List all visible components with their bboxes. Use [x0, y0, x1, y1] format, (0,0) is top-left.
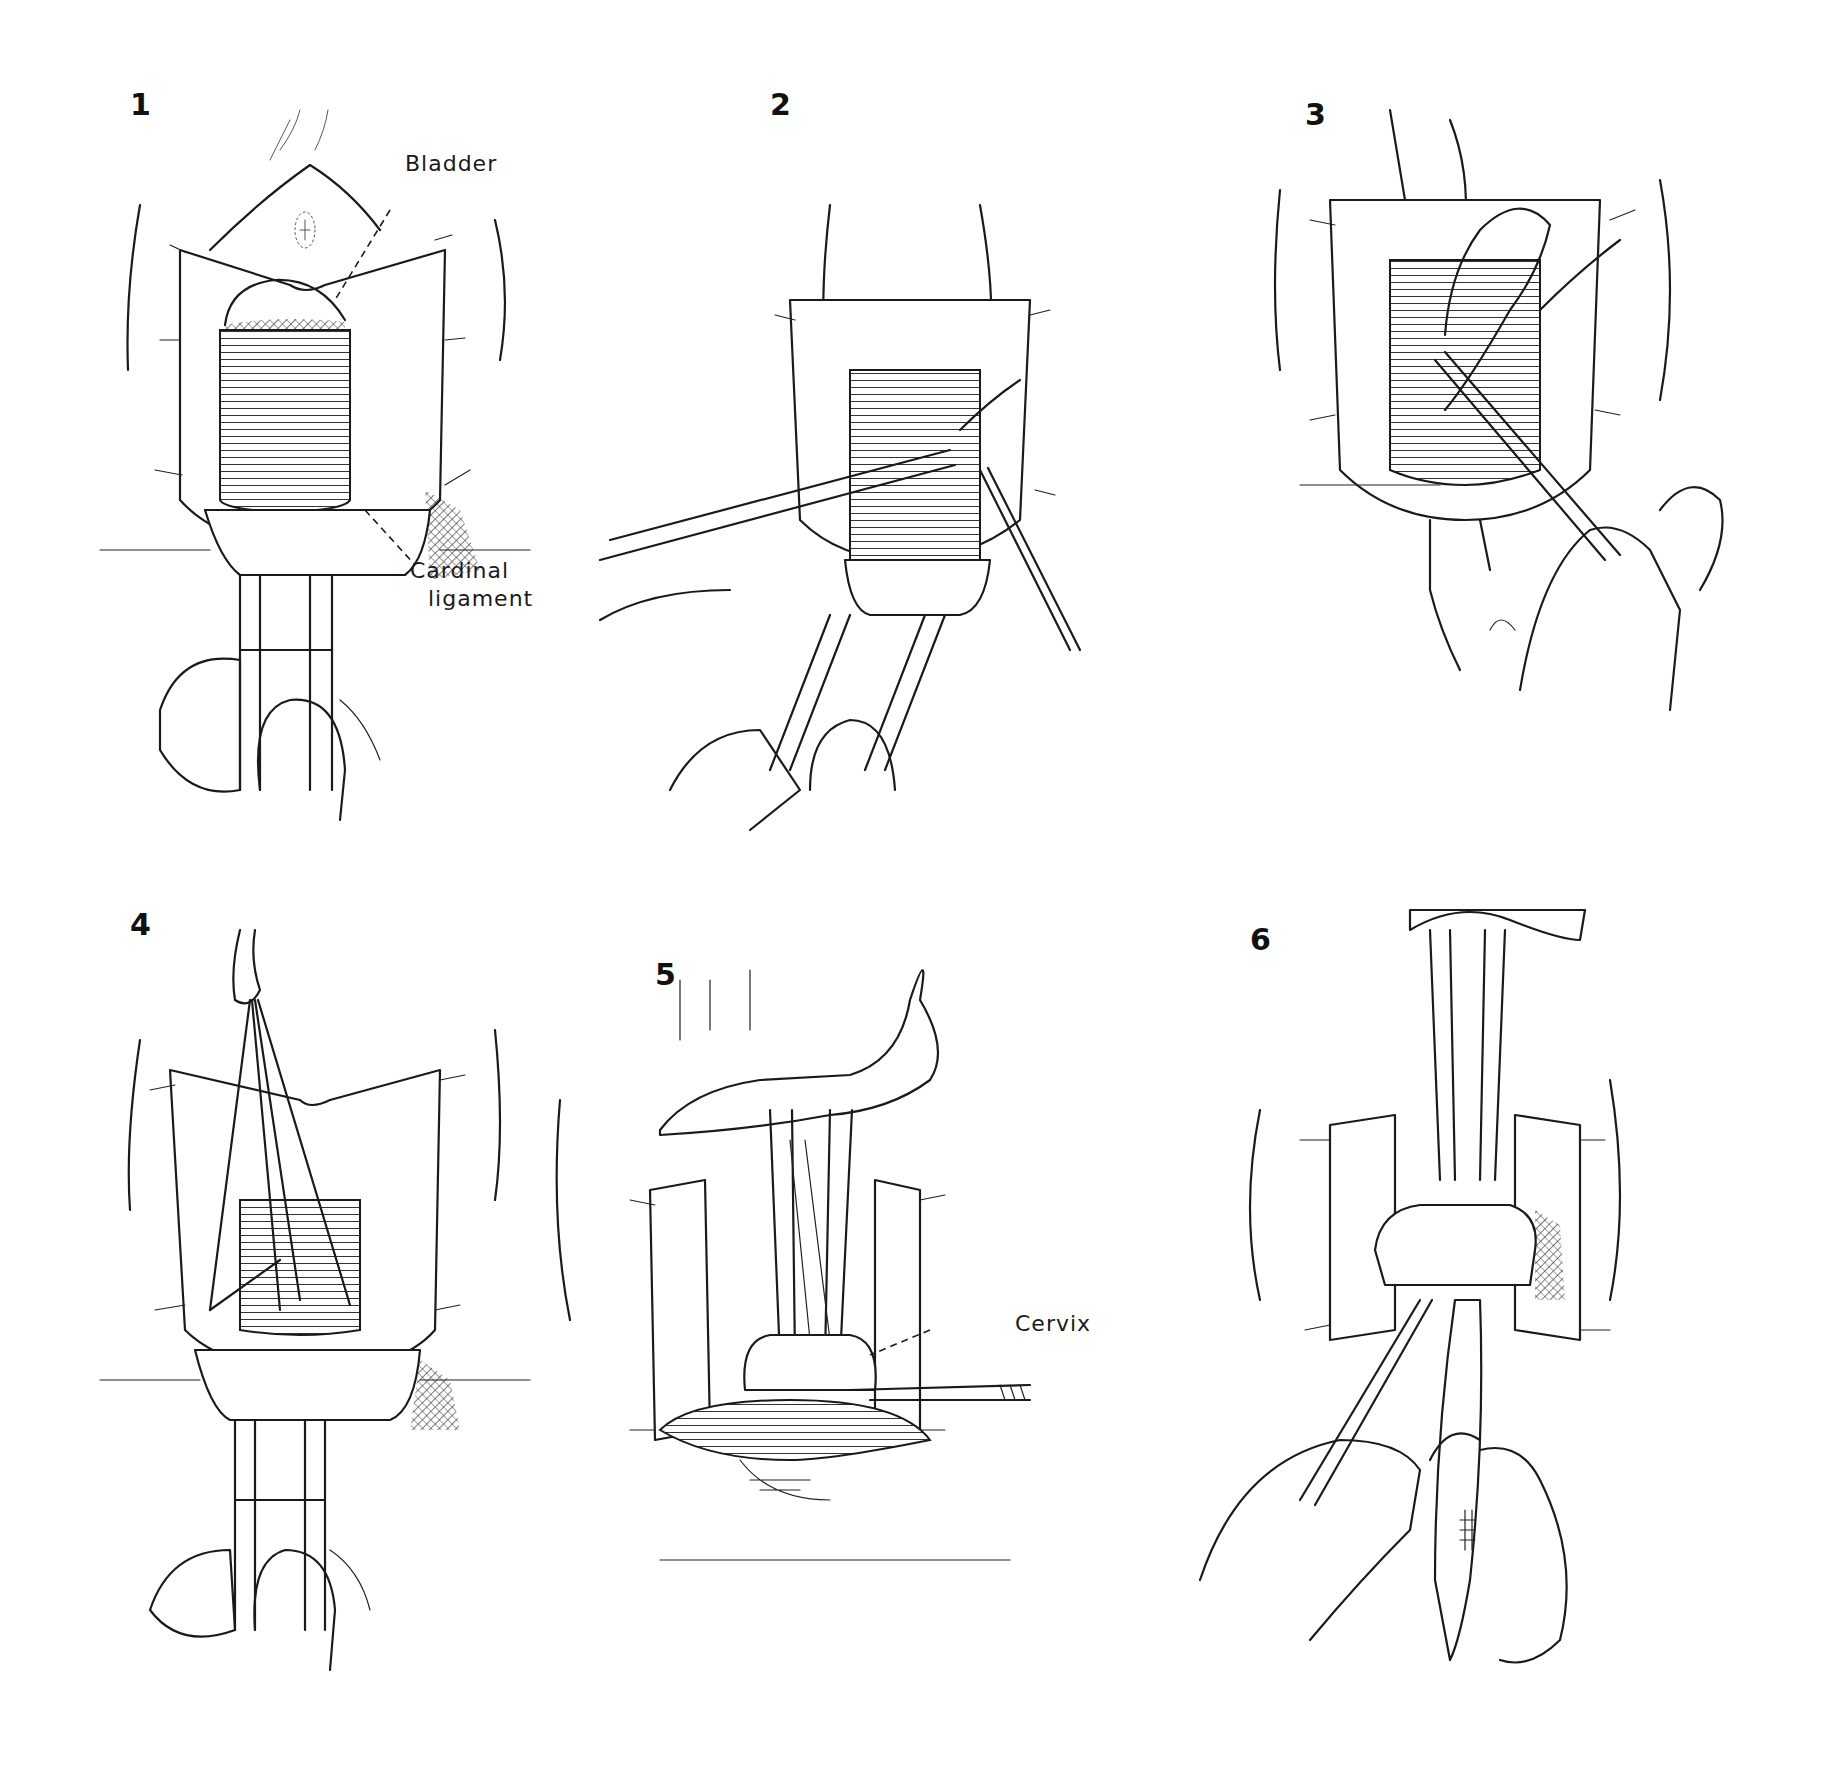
label-cardinal-ligament: Cardinal ligament — [410, 557, 533, 612]
label-cervix: Cervix — [1015, 1310, 1091, 1338]
panel-2-drawing — [690, 90, 1130, 830]
panel-1-drawing — [100, 90, 580, 810]
panel-6: 6 — [1180, 880, 1740, 1680]
label-cardinal-line2: ligament — [410, 585, 533, 613]
panel-5-drawing — [630, 960, 1130, 1600]
panel-4: 4 — [100, 910, 580, 1670]
panel-1: 1 — [100, 90, 580, 810]
panel-6-drawing — [1180, 880, 1740, 1680]
surgical-illustration-plate: 1 — [0, 0, 1834, 1779]
panel-3: 3 — [1240, 90, 1760, 730]
panel-5: 5 Cervix — [630, 960, 1130, 1600]
panel-3-drawing — [1240, 90, 1760, 730]
panel-4-drawing — [100, 910, 580, 1670]
label-cardinal-line1: Cardinal — [410, 557, 533, 585]
label-bladder: Bladder — [405, 150, 497, 178]
panel-2: 2 — [690, 90, 1130, 830]
